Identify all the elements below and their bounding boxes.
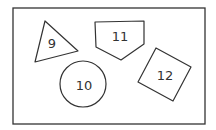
shape-11-pentagon: 11 xyxy=(95,21,144,60)
shape-label-10: 10 xyxy=(76,78,93,93)
shape-label-9: 9 xyxy=(48,36,56,51)
shape-label-12: 12 xyxy=(157,68,174,83)
shapes-diagram: 9 10 11 12 xyxy=(0,0,216,130)
shape-12-square: 12 xyxy=(138,48,191,101)
outer-frame xyxy=(13,8,205,124)
shape-9-triangle: 9 xyxy=(35,21,78,62)
shape-label-11: 11 xyxy=(112,29,129,44)
shape-10-circle: 10 xyxy=(60,61,106,107)
triangle-shape xyxy=(35,21,78,62)
